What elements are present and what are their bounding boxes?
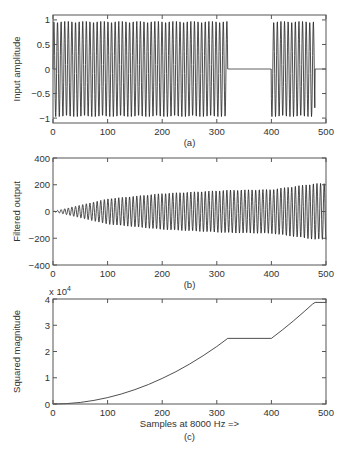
- y-tick-label: 400: [34, 153, 50, 164]
- x-tick-label: 200: [154, 407, 170, 418]
- x-tick-label: 0: [50, 268, 55, 279]
- x-tick-label: 200: [154, 126, 170, 137]
- y-tick-label: −0.5: [31, 88, 50, 99]
- axes-frame-c: [53, 299, 326, 404]
- y-tick-label: 1: [45, 372, 50, 383]
- y-tick-label: 3: [45, 320, 50, 331]
- y-tick-label: 0: [45, 206, 50, 217]
- x-tick-label: 100: [100, 407, 116, 418]
- y-tick-label: −200: [29, 233, 50, 244]
- exponent-label-c: x 104: [49, 285, 71, 297]
- x-tick-label: 500: [318, 126, 334, 137]
- input-amplitude-trace: [53, 21, 326, 116]
- x-tick-label: 500: [318, 268, 334, 279]
- ylabel-c: Squared magnitude: [11, 310, 22, 393]
- caption-b: (b): [184, 279, 196, 290]
- caption-c: (c): [184, 431, 195, 442]
- subplot-c: 010020030040050001234 Squared magnitude …: [11, 285, 334, 442]
- y-tick-label: −1: [39, 113, 50, 124]
- y-tick-label: 1: [45, 14, 50, 25]
- figure: 0100200300400500−1−0.500.51 Input amplit…: [0, 0, 348, 451]
- y-tick-label: 0: [45, 399, 50, 410]
- x-tick-label: 500: [318, 407, 334, 418]
- y-tick-label: −400: [29, 260, 50, 271]
- xlabel-c: Samples at 8000 Hz =>: [140, 418, 240, 429]
- ylabel-a: Input amplitude: [11, 37, 22, 102]
- ticks-c: 010020030040050001234: [45, 294, 334, 419]
- x-tick-label: 0: [50, 407, 55, 418]
- x-tick-label: 100: [100, 126, 116, 137]
- ylabel-b: Filtered output: [11, 181, 22, 242]
- x-tick-label: 200: [154, 268, 170, 279]
- x-tick-label: 300: [209, 268, 225, 279]
- subplot-a: 0100200300400500−1−0.500.51 Input amplit…: [11, 14, 334, 148]
- x-tick-label: 0: [50, 126, 55, 137]
- x-tick-label: 300: [209, 126, 225, 137]
- x-tick-label: 400: [263, 407, 279, 418]
- y-tick-label: 0: [45, 64, 50, 75]
- x-tick-label: 300: [209, 407, 225, 418]
- squared-magnitude-trace: [53, 302, 326, 404]
- x-tick-label: 400: [263, 268, 279, 279]
- y-tick-label: 200: [34, 179, 50, 190]
- caption-a: (a): [184, 137, 196, 148]
- x-tick-label: 400: [263, 126, 279, 137]
- x-tick-label: 100: [100, 268, 116, 279]
- y-tick-label: 0.5: [37, 39, 50, 50]
- filtered-output-trace: [53, 183, 326, 239]
- y-tick-label: 2: [45, 346, 50, 357]
- subplot-b: 0100200300400500−400−2000200400 Filtered…: [11, 153, 334, 291]
